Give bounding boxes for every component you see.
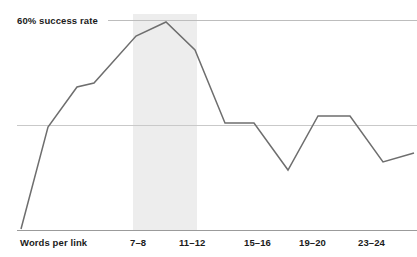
- highlight-band: [133, 14, 197, 231]
- x-axis-tick-19-20: 19–20: [299, 237, 326, 248]
- x-axis-tick-11-12: 11–12: [179, 237, 205, 248]
- y-axis-label: 60% success rate: [17, 15, 98, 26]
- x-axis-label-words-per-link: Words per link: [20, 237, 88, 248]
- x-axis-tick-7-8: 7–8: [130, 237, 146, 248]
- chart-container: 60% success rate Words per link 7–8 11–1…: [0, 0, 417, 257]
- x-axis-tick-23-24: 23–24: [358, 237, 386, 248]
- x-axis-tick-15-16: 15–16: [244, 237, 271, 248]
- line-chart: 60% success rate Words per link 7–8 11–1…: [0, 0, 417, 257]
